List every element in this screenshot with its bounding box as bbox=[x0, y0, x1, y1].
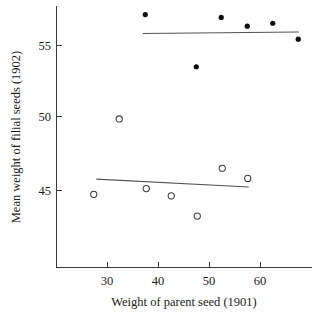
y-axis-title: Mean weight of filial seeds (1902) bbox=[9, 51, 23, 224]
data-point-filled bbox=[270, 21, 275, 26]
data-series-layer bbox=[91, 12, 301, 219]
data-point-filled bbox=[194, 64, 199, 69]
data-point-open bbox=[91, 191, 97, 197]
data-point-open bbox=[194, 213, 200, 219]
x-tick-label-60: 60 bbox=[254, 274, 267, 288]
y-tick-label-55: 55 bbox=[39, 39, 52, 53]
data-point-open bbox=[168, 193, 174, 199]
data-point-filled bbox=[143, 12, 148, 17]
upper-regression-line bbox=[143, 32, 299, 33]
data-point-filled bbox=[245, 24, 250, 29]
data-point-filled bbox=[296, 37, 301, 42]
data-point-open bbox=[143, 185, 149, 191]
y-tick-label-45: 45 bbox=[39, 184, 52, 198]
data-point-open bbox=[245, 175, 251, 181]
plot-canvas: 55 50 45 30 40 50 60 Weight of parent se… bbox=[0, 0, 316, 319]
data-point-open bbox=[219, 165, 225, 171]
data-point-open bbox=[116, 116, 122, 122]
x-tick-label-30: 30 bbox=[101, 274, 114, 288]
data-point-filled bbox=[219, 15, 224, 20]
scatter-plot-figure: 55 50 45 30 40 50 60 Weight of parent se… bbox=[0, 0, 316, 319]
x-axis-title: Weight of parent seed (1901) bbox=[111, 295, 256, 309]
y-tick-label-50: 50 bbox=[39, 110, 52, 124]
lower-regression-line bbox=[96, 179, 248, 187]
x-tick-label-40: 40 bbox=[152, 274, 165, 288]
x-tick-label-50: 50 bbox=[203, 274, 216, 288]
